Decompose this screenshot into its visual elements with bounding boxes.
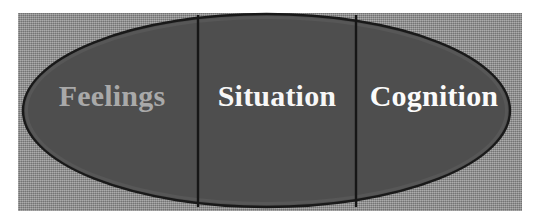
segment-label-feelings: Feelings xyxy=(28,76,196,116)
segment-label-layer: Feelings Situation Cognition xyxy=(0,0,538,222)
segment-label-situation: Situation xyxy=(200,76,354,116)
segment-label-cognition: Cognition xyxy=(358,76,510,116)
diagram-figure: Feelings Situation Cognition xyxy=(0,0,538,222)
